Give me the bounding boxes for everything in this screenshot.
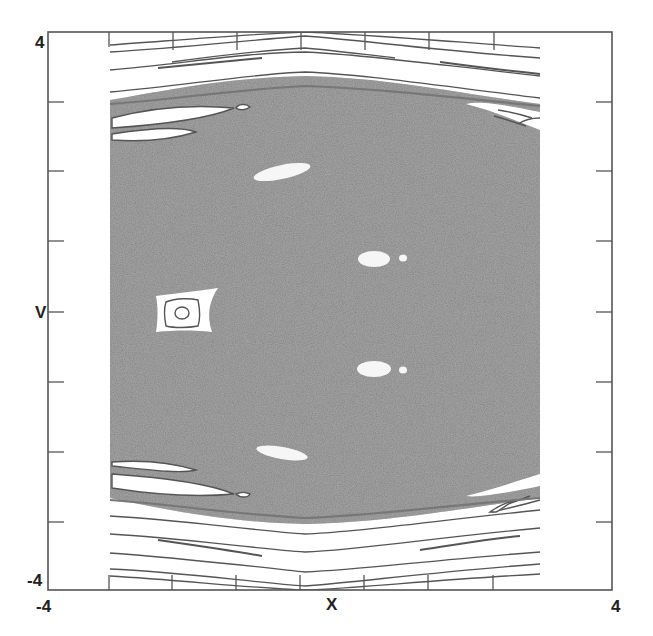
y-axis-max-label: 4 [35, 34, 44, 51]
y-axis-min-label: -4 [27, 572, 42, 589]
poincare-plot [0, 0, 653, 636]
x-axis-min-label: -4 [36, 598, 51, 615]
x-axis-label: X [326, 596, 337, 613]
y-axis-label: V [35, 304, 46, 321]
x-axis-max-label: 4 [611, 598, 620, 615]
